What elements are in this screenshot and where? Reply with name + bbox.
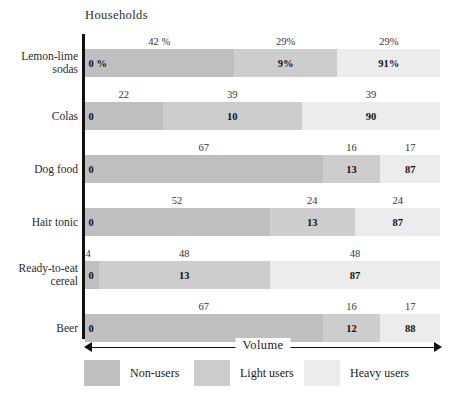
bar-segment-heavy: 87	[270, 261, 441, 289]
row-label-line: Dog food	[0, 163, 78, 176]
chart-row: Dog food67161701387	[0, 140, 449, 193]
bar-segment-heavy: 87	[380, 155, 441, 183]
bar-segment-non: 0	[85, 208, 270, 236]
legend-label: Light users	[240, 366, 294, 381]
volume-value-label: 0	[89, 164, 324, 175]
volume-value-label: 13	[270, 217, 355, 228]
bar-segment-light: 13	[99, 261, 270, 289]
households-value-label: 17	[380, 300, 440, 313]
row-label-line: Lemon-lime	[0, 50, 78, 63]
households-value-label: 48	[325, 247, 385, 260]
volume-value-label: 0	[89, 323, 324, 334]
bar-segment-non: 0	[85, 155, 324, 183]
legend-item-non[interactable]: Non-users	[84, 360, 179, 386]
legend-swatch-light	[194, 360, 230, 386]
bar-segment-heavy: 90	[302, 102, 441, 130]
volume-value-label: 13	[323, 164, 380, 175]
legend-item-heavy[interactable]: Heavy users	[304, 360, 409, 386]
households-value-label: 22	[94, 88, 154, 101]
chart-row: Lemon-limesodas42 %29%29%0 %9%91%	[0, 34, 449, 87]
households-value-label: 67	[174, 300, 234, 313]
households-value-label: 16	[322, 300, 382, 313]
households-value-label: 48	[154, 247, 214, 260]
legend-swatch-non	[84, 360, 120, 386]
legend-label: Heavy users	[350, 366, 409, 381]
households-value-label: 29%	[256, 35, 316, 48]
bar-segment-light: 13	[270, 208, 355, 236]
stacked-bar: 01387	[85, 261, 441, 289]
row-label-beer: Beer	[0, 322, 78, 335]
households-value-label: 52	[147, 194, 207, 207]
volume-value-label: 0	[89, 270, 99, 281]
row-label-line: Ready-to-eat	[0, 262, 78, 275]
volume-value-label: 90	[302, 111, 441, 122]
bar-segment-heavy: 87	[355, 208, 440, 236]
bar-segment-non: 0	[85, 102, 163, 130]
row-label-dog-food: Dog food	[0, 163, 78, 176]
households-value-label: 42 %	[129, 35, 189, 48]
bar-segment-light: 10	[163, 102, 302, 130]
arrow-right-icon	[434, 342, 442, 352]
volume-value-label: 0 %	[89, 58, 235, 69]
bar-segment-non: 0	[85, 261, 99, 289]
row-label-line: Hair tonic	[0, 216, 78, 229]
row-label-colas: Colas	[0, 110, 78, 123]
stacked-bar: 01090	[85, 102, 441, 130]
households-value-label: 17	[380, 141, 440, 154]
volume-value-label: 0	[89, 111, 163, 122]
bar-segment-heavy: 91%	[337, 49, 440, 77]
chart-row: Colas22393901090	[0, 87, 449, 140]
row-label-line: Colas	[0, 110, 78, 123]
bar-segment-non: 0 %	[85, 49, 235, 77]
stacked-bar: 01387	[85, 208, 441, 236]
households-axis-label: Households	[85, 8, 148, 23]
row-label-hair-tonic: Hair tonic	[0, 216, 78, 229]
row-label-line: Beer	[0, 322, 78, 335]
households-value-label: 24	[282, 194, 342, 207]
legend-label: Non-users	[130, 366, 179, 381]
chart-row: Ready-to-eatcereal4484801387	[0, 246, 449, 299]
households-value-label: 4	[86, 247, 91, 260]
volume-axis: Volume	[84, 339, 442, 355]
households-value-label: 67	[174, 141, 234, 154]
volume-value-label: 87	[380, 164, 441, 175]
legend-swatch-heavy	[304, 360, 340, 386]
bar-segment-light: 12	[323, 314, 380, 342]
volume-value-label: 87	[270, 270, 441, 281]
volume-value-label: 91%	[337, 58, 440, 69]
volume-value-label: 10	[163, 111, 302, 122]
households-value-label: 39	[202, 88, 262, 101]
volume-value-label: 87	[355, 217, 440, 228]
households-value-label: 29%	[359, 35, 419, 48]
volume-value-label: 12	[323, 323, 380, 334]
stacked-bar: 01387	[85, 155, 441, 183]
chart-legend: Non-usersLight usersHeavy users	[84, 360, 444, 394]
volume-axis-label: Volume	[235, 338, 290, 353]
bar-segment-light: 13	[323, 155, 380, 183]
bar-segment-heavy: 88	[380, 314, 441, 342]
legend-item-light[interactable]: Light users	[194, 360, 294, 386]
volume-value-label: 0	[89, 217, 270, 228]
row-label-line: cereal	[0, 275, 78, 288]
households-value-label: 39	[341, 88, 401, 101]
households-value-label: 16	[322, 141, 382, 154]
stacked-bar: 0 %9%91%	[85, 49, 441, 77]
row-label-ready-to-eat-cereal: Ready-to-eatcereal	[0, 262, 78, 288]
volume-value-label: 88	[380, 323, 441, 334]
stacked-bar-chart: Households Lemon-limesodas42 %29%29%0 %9…	[0, 0, 449, 404]
volume-value-label: 9%	[234, 58, 337, 69]
row-label-lemon-lime-sodas: Lemon-limesodas	[0, 50, 78, 76]
households-value-label: 24	[368, 194, 428, 207]
row-label-line: sodas	[0, 63, 78, 76]
chart-row: Hair tonic52242401387	[0, 193, 449, 246]
bar-segment-light: 9%	[234, 49, 337, 77]
volume-value-label: 13	[99, 270, 270, 281]
